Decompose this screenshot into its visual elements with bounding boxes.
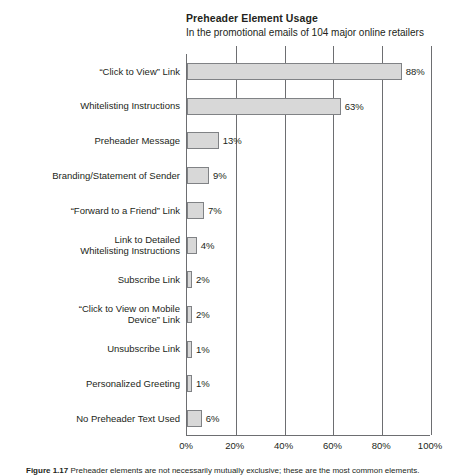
bar: [187, 98, 341, 115]
figure-caption: Figure 1.17 Preheader elements are not n…: [26, 466, 436, 476]
bar: [187, 375, 192, 392]
category-label: “Forward to a Friend” Link: [0, 205, 180, 217]
bar-value-label: 2%: [196, 306, 210, 323]
x-tick-label: 60%: [323, 440, 342, 452]
category-label: Link to DetailedWhitelisting Instruction…: [0, 234, 180, 257]
category-label: No Preheader Text Used: [0, 413, 180, 425]
x-tick-label: 40%: [274, 440, 293, 452]
bar-value-label: 2%: [196, 271, 210, 288]
x-tick-label: 100%: [418, 440, 442, 452]
chart-subtitle: In the promotional emails of 104 major o…: [186, 26, 448, 39]
bar: [187, 202, 204, 219]
bar: [187, 306, 192, 323]
bar-value-label: 4%: [201, 237, 215, 254]
category-label: Personalized Greeting: [0, 378, 180, 390]
x-tick-label: 0%: [179, 440, 193, 452]
bar-value-label: 6%: [206, 410, 220, 427]
bar: [187, 271, 192, 288]
chart-title: Preheader Element Usage: [186, 12, 448, 25]
plot-area: 88%63%13%9%7%4%2%2%1%1%6%: [186, 54, 430, 436]
category-label: “Click to View” Link: [0, 66, 180, 78]
category-label: Whitelisting Instructions: [0, 100, 180, 112]
caption-label: Figure 1.17: [26, 466, 68, 475]
x-tick-label: 80%: [372, 440, 391, 452]
chart-title-block: Preheader Element Usage In the promotion…: [186, 12, 448, 39]
category-axis-labels: “Click to View” LinkWhitelisting Instruc…: [0, 54, 180, 436]
bar-value-label: 1%: [196, 341, 210, 358]
gridline-100pct: [431, 46, 432, 435]
x-tick-label: 20%: [225, 440, 244, 452]
category-label: Subscribe Link: [0, 274, 180, 286]
category-label: Branding/Statement of Sender: [0, 170, 180, 182]
figure-preheader-element-usage: Preheader Element Usage In the promotion…: [0, 0, 450, 476]
bar-value-label: 1%: [196, 375, 210, 392]
caption-text: Preheader elements are not necessarily m…: [70, 466, 419, 475]
bar: [187, 167, 209, 184]
category-label: Preheader Message: [0, 135, 180, 147]
bars: 88%63%13%9%7%4%2%2%1%1%6%: [187, 54, 430, 435]
bar-value-label: 13%: [223, 132, 242, 149]
category-label: Unsubscribe Link: [0, 343, 180, 355]
bar: [187, 132, 219, 149]
bar-value-label: 63%: [345, 98, 364, 115]
bar-value-label: 9%: [213, 167, 227, 184]
bar: [187, 237, 197, 254]
bar: [187, 63, 402, 80]
x-axis-tick-labels: 0%20%40%60%80%100%: [186, 440, 430, 454]
category-label: “Click to View on MobileDevice” Link: [0, 303, 180, 326]
bar: [187, 410, 202, 427]
bar-value-label: 7%: [208, 202, 222, 219]
bar-value-label: 88%: [406, 63, 425, 80]
bar: [187, 341, 192, 358]
